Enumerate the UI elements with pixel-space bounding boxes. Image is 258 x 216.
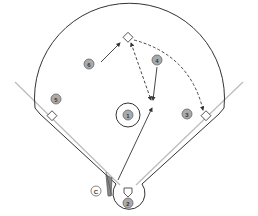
player-4: 4 — [152, 55, 162, 65]
foul-line-right — [136, 82, 243, 185]
throw-second-to-fielder — [131, 43, 151, 100]
infield-edge-right — [142, 108, 224, 184]
player-3: 3 — [182, 109, 192, 119]
second-baseman-route — [153, 67, 157, 100]
shortstop-route — [101, 43, 120, 62]
player-5: 5 — [51, 94, 61, 104]
throw-second-to-first — [134, 40, 203, 110]
second-base — [123, 32, 133, 42]
player-2: 2 — [123, 198, 133, 208]
coach-marker: C — [91, 186, 101, 196]
first-base — [201, 111, 211, 121]
third-base — [47, 111, 57, 121]
foul-line-left — [15, 82, 120, 185]
baseball-field-diagram: 1 2 3 4 5 6 C — [0, 0, 258, 216]
player-6: 6 — [84, 59, 94, 69]
outfield-fence — [35, 3, 225, 108]
infield-edge-left — [35, 108, 116, 184]
home-plate — [124, 188, 132, 197]
player-1: 1 — [123, 110, 133, 120]
svg-text:C: C — [94, 189, 99, 195]
field-svg: 1 2 3 4 5 6 C — [0, 0, 258, 216]
batted-ball-path — [118, 108, 152, 180]
